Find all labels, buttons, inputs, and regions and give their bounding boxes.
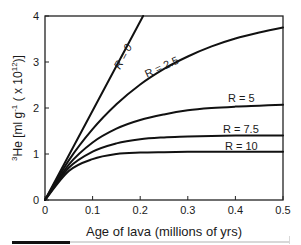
label-r25-text: R = 2.5	[143, 54, 181, 80]
label-r5: R = 5	[228, 92, 255, 104]
plot-frame	[45, 16, 283, 200]
footer-bar-gray-end	[289, 236, 290, 244]
label-r10: R = 10	[225, 140, 258, 152]
y-title-main: He [ml g	[11, 112, 25, 157]
y-title-mid: ( x 10	[11, 71, 25, 105]
x-axis-title: Age of lava (millions of yrs)	[86, 224, 242, 239]
y-tick-label: 4	[33, 10, 39, 22]
label-r5-text: R = 5	[228, 92, 255, 104]
label-r0: R = 0	[111, 41, 134, 71]
y-tick-label: 1	[33, 148, 39, 160]
x-tick-label: 0.5	[275, 204, 290, 216]
footer-bar-gray	[70, 241, 290, 243]
x-tick-label: 0.1	[85, 204, 100, 216]
label-r75: R = 7.5	[223, 123, 259, 135]
y-title-post: )]	[11, 55, 25, 62]
x-tick-label: 0.4	[228, 204, 243, 216]
chart: 00.10.20.30.40.501234 R = 0 R = 2.5 R = …	[0, 0, 301, 245]
label-r10-text: R = 10	[225, 140, 258, 152]
curves	[45, 16, 283, 200]
axis-ticks: 00.10.20.30.40.501234	[33, 10, 291, 216]
x-tick-label: 0.2	[133, 204, 148, 216]
label-r25: R = 2.5	[143, 54, 181, 80]
y-tick-label: 0	[33, 194, 39, 206]
curve-0	[45, 16, 143, 200]
plot-border	[45, 16, 283, 200]
y-axis-title: 3He [ml g-1 ( x 1012)]	[10, 55, 25, 161]
label-r0-text: R = 0	[111, 41, 134, 71]
y-tick-label: 3	[33, 56, 39, 68]
footer-bar-black	[12, 241, 70, 244]
y-tick-label: 2	[33, 102, 39, 114]
label-r75-text: R = 7.5	[223, 123, 259, 135]
x-tick-label: 0.3	[180, 204, 195, 216]
x-tick-label: 0	[42, 204, 48, 216]
